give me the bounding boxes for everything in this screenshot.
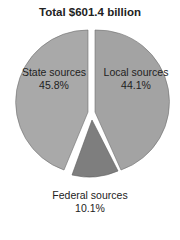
- label-state-name: State sources: [14, 66, 94, 79]
- label-state: State sources 45.8%: [14, 66, 94, 92]
- label-local-pct: 44.1%: [96, 79, 176, 92]
- slice-state: [16, 30, 88, 170]
- label-local-name: Local sources: [96, 66, 176, 79]
- label-federal-pct: 10.1%: [40, 202, 140, 215]
- label-state-pct: 45.8%: [14, 79, 94, 92]
- label-federal-name: Federal sources: [40, 189, 140, 202]
- label-federal: Federal sources 10.1%: [40, 189, 140, 215]
- label-local: Local sources 44.1%: [96, 66, 176, 92]
